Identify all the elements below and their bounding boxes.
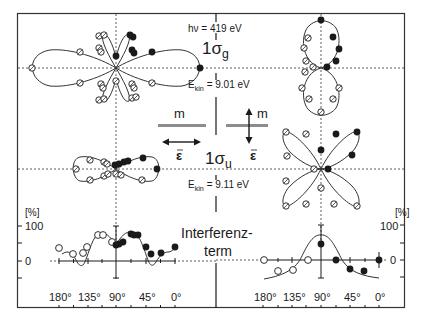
polarization-label-left: ε xyxy=(176,149,182,162)
photon-energy-label: hν = 419 eV xyxy=(188,24,242,34)
percent-unit-left: [%] xyxy=(25,208,39,218)
ekin-g-symbol: E xyxy=(188,79,195,90)
x-tick-right-180: 180° xyxy=(254,292,277,303)
x-tick-left-135: 135° xyxy=(78,292,101,303)
ekin-label-sigma-g: Ekin = 9.01 eV xyxy=(188,80,250,92)
y-tick-100-right: 100 xyxy=(380,221,398,232)
ekin-g-sub: kin xyxy=(195,84,204,93)
percent-unit-right: [%] xyxy=(395,208,409,218)
ekin-u-symbol: E xyxy=(188,179,195,190)
x-tick-right-135: 135° xyxy=(283,292,306,303)
molecule-bar-left xyxy=(158,124,206,127)
y-tick-0-right: 0 xyxy=(390,255,396,266)
molecule-label-right: m xyxy=(257,107,268,120)
data-points-left xyxy=(56,231,179,258)
x-tick-left-90: 90° xyxy=(109,292,126,303)
state-g-subscript: g xyxy=(222,47,229,61)
state-label-sigma-g: 1σg xyxy=(202,40,229,61)
polarization-label-right: ε xyxy=(250,149,256,162)
ekin-u-value: = 9.11 eV xyxy=(204,179,249,190)
molecule-label-left: m xyxy=(174,107,185,120)
state-u-text: 1σ xyxy=(205,149,225,168)
y-tick-0-left: 0 xyxy=(25,256,31,267)
geometry-parallel xyxy=(158,124,206,150)
state-g-text: 1σ xyxy=(202,39,222,58)
ekin-u-sub: kin xyxy=(195,184,204,193)
state-u-subscript: u xyxy=(225,157,232,171)
interference-label-line2: term xyxy=(204,244,232,258)
x-tick-right-45: 45° xyxy=(344,292,361,303)
ekin-g-value: = 9.01 eV xyxy=(204,79,250,90)
ekin-label-sigma-u: Ekin = 9.11 eV xyxy=(188,180,249,192)
x-tick-left-0: 0° xyxy=(171,292,182,303)
molecule-bar-right xyxy=(226,124,268,127)
x-tick-right-90: 90° xyxy=(314,292,331,303)
x-tick-left-45: 45° xyxy=(139,292,156,303)
double-arrow-horizontal-icon xyxy=(162,139,201,146)
x-tick-right-0: 0° xyxy=(375,292,386,303)
y-tick-100-left: 100 xyxy=(25,221,43,232)
x-tick-left-180: 180° xyxy=(49,292,72,303)
state-label-sigma-u: 1σu xyxy=(205,150,232,171)
interference-label-line1: Interferenz- xyxy=(181,226,253,240)
